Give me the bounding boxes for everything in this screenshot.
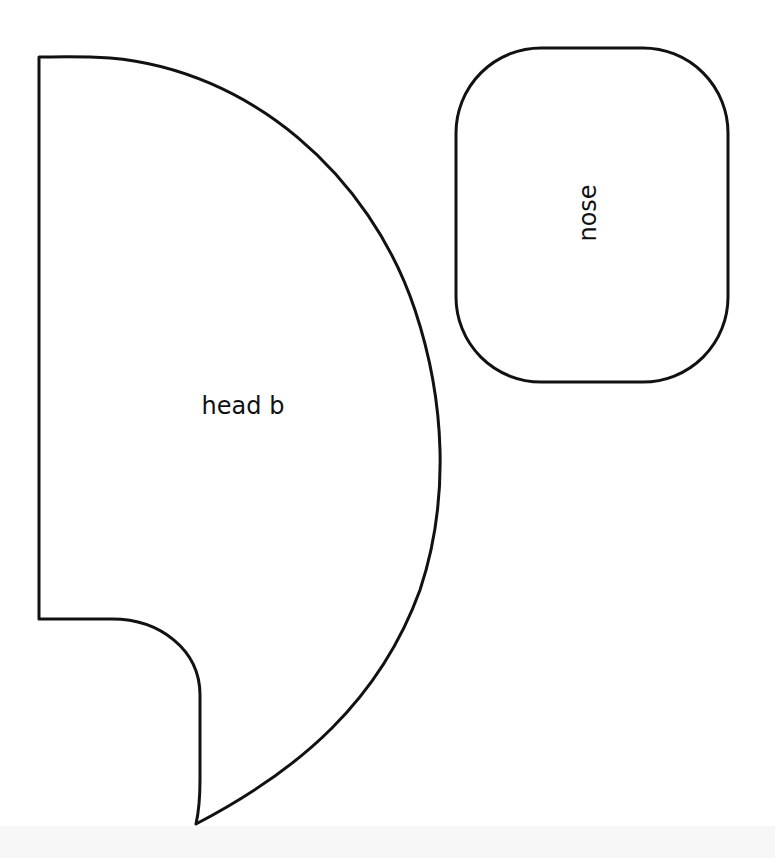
head-b-outline xyxy=(39,57,440,824)
nose-label: nose xyxy=(574,184,602,241)
head-b-piece: head b xyxy=(39,57,440,824)
pattern-drawing: head b nose xyxy=(0,0,775,858)
pattern-page: head b nose xyxy=(0,0,775,858)
nose-piece: nose xyxy=(456,48,728,382)
head-b-label: head b xyxy=(202,392,285,420)
